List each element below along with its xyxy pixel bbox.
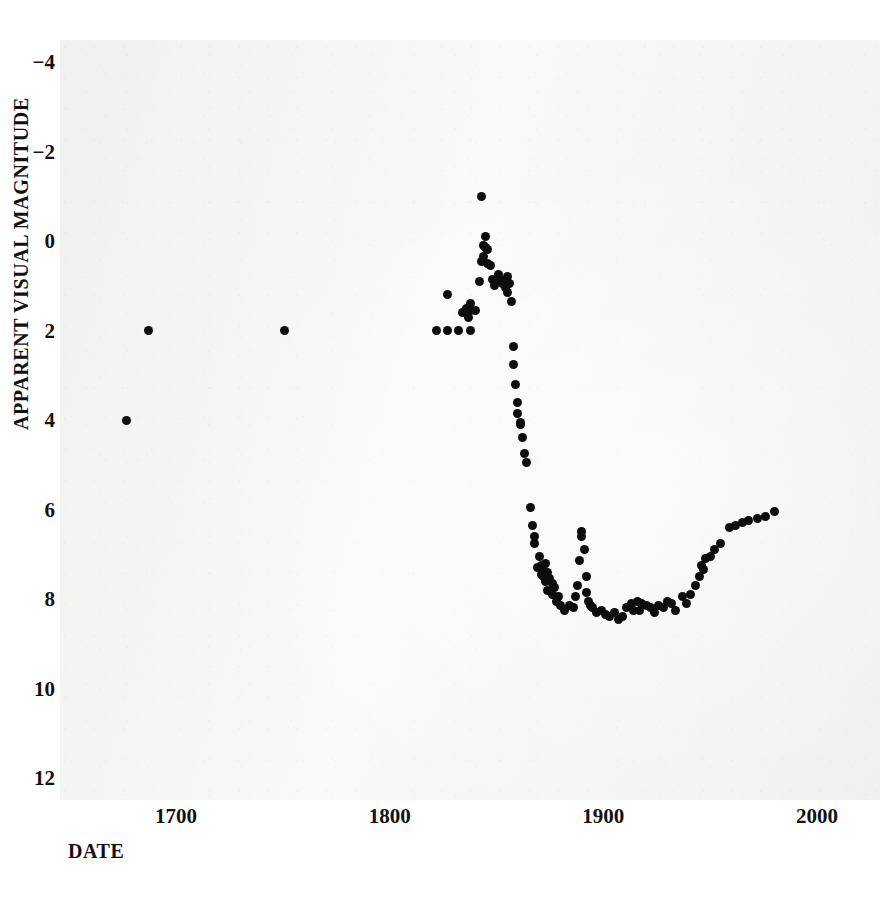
- x-axis-label: DATE: [68, 840, 124, 863]
- y-tick-label: 12: [0, 768, 55, 789]
- x-tick-label: 1800: [369, 806, 411, 827]
- y-axis-label: APPARENT VISUAL MAGNITUDE: [10, 97, 33, 430]
- y-tick-label: 8: [0, 589, 55, 610]
- figure-canvas: −4−2024681012 APPARENT VISUAL MAGNITUDE …: [0, 0, 881, 908]
- y-tick-label: −4: [0, 52, 55, 73]
- x-tick-label: 1700: [155, 806, 197, 827]
- x-tick-label: 2000: [796, 806, 838, 827]
- y-axis-tick-labels: −4−2024681012: [0, 0, 881, 908]
- y-tick-label: 6: [0, 499, 55, 520]
- y-tick-label: 10: [0, 678, 55, 699]
- x-tick-label: 1900: [582, 806, 624, 827]
